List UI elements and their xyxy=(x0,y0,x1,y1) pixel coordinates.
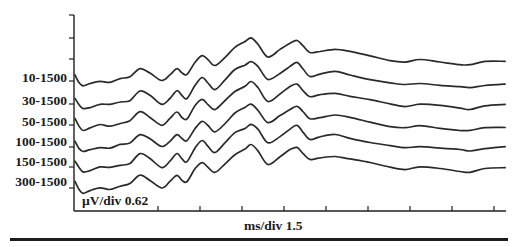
waveform-traces xyxy=(75,38,505,194)
bottom-rule xyxy=(10,238,508,241)
series-label-300-1500: 300-1500 xyxy=(15,174,67,189)
chart-canvas: 10-1500 30-1500 50-1500 100-1500 150-150… xyxy=(0,0,518,247)
series-label-100-1500: 100-1500 xyxy=(15,134,67,149)
series-label-150-1500: 150-1500 xyxy=(15,154,67,169)
trace-50-1500 xyxy=(75,81,505,130)
series-label-50-1500: 50-1500 xyxy=(22,114,67,129)
trace-300-1500 xyxy=(75,144,505,193)
x-scale-label: ms/div 1.5 xyxy=(244,218,303,233)
series-label-30-1500: 30-1500 xyxy=(22,93,67,108)
series-label-10-1500: 10-1500 xyxy=(22,70,67,85)
x-axis-ticks xyxy=(158,206,494,211)
series-labels: 10-1500 30-1500 50-1500 100-1500 150-150… xyxy=(15,70,67,189)
trace-10-1500 xyxy=(75,38,505,86)
trace-150-1500 xyxy=(75,124,505,172)
y-axis-ticks xyxy=(69,15,74,188)
y-scale-label: µV/div 0.62 xyxy=(82,193,149,208)
evoked-potential-chart: 10-1500 30-1500 50-1500 100-1500 150-150… xyxy=(0,0,518,247)
y-axis xyxy=(69,15,74,211)
